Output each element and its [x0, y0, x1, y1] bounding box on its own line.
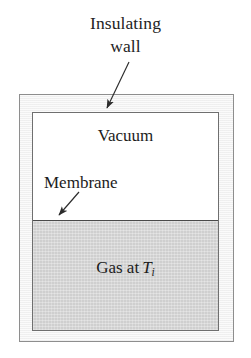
vacuum-label: Vacuum — [0, 126, 251, 146]
membrane-line — [33, 220, 218, 221]
gas-label-text: Gas at — [96, 258, 139, 277]
figure-caption: Insulating wall — [0, 12, 251, 58]
membrane-label: Membrane — [44, 173, 118, 193]
temperature-symbol: T — [139, 258, 151, 277]
gas-label: Gas atTi — [0, 258, 251, 278]
temperature-subscript: i — [152, 266, 155, 278]
insulating-wall-figure: Insulating wall Vacuum Membrane Gas atTi — [0, 0, 251, 358]
